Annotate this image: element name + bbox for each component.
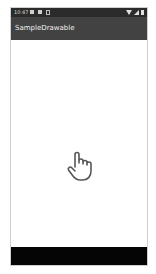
phone-screen: 10:47 SampleDrawable — [10, 7, 148, 266]
status-time: 10:47 — [14, 8, 28, 17]
app-title: SampleDrawable — [15, 24, 75, 33]
sim-icon — [38, 10, 42, 14]
content-area[interactable] — [11, 40, 147, 249]
info-icon — [46, 10, 50, 15]
app-bar: SampleDrawable — [11, 17, 147, 40]
battery-icon — [141, 10, 144, 15]
wifi-icon — [126, 10, 132, 15]
status-right-icons — [126, 10, 144, 15]
status-bar: 10:47 — [11, 8, 147, 17]
status-left-icons — [30, 10, 50, 15]
notification-icon — [30, 10, 34, 14]
hand-pointer-icon — [66, 150, 94, 182]
signal-icon — [134, 10, 139, 15]
navigation-bar — [11, 247, 147, 265]
